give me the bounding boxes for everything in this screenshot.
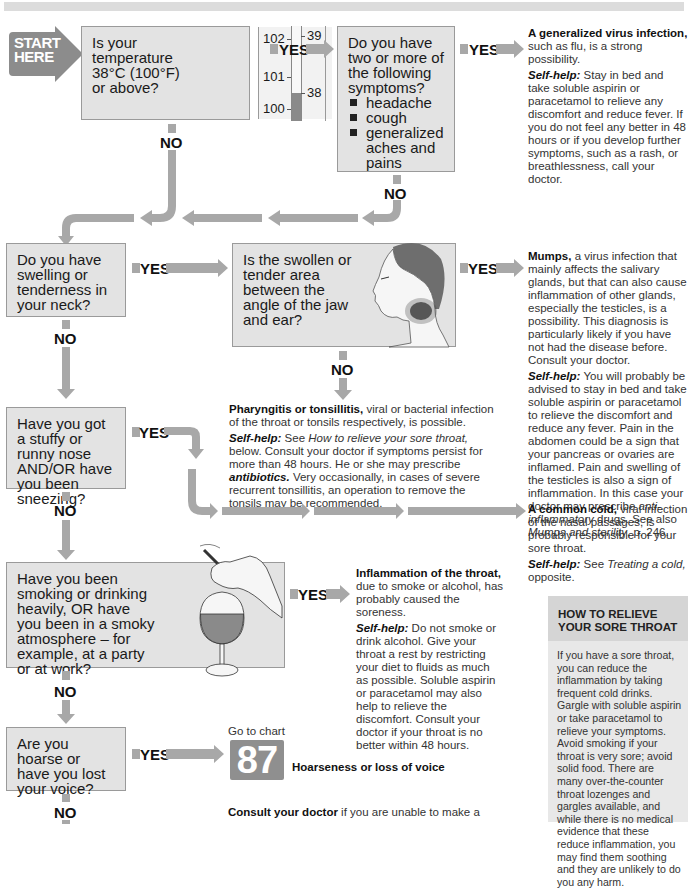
chart-87-badge[interactable]: 87 xyxy=(230,740,284,780)
symptom-item: cough xyxy=(348,110,444,125)
question-temperature: Is your temperature 38°C (100°F) or abov… xyxy=(81,26,250,120)
answer-consult-doctor: Consult your doctor if you are unable to… xyxy=(228,806,508,819)
question-text: Do you have swelling or tenderness in yo… xyxy=(17,252,115,312)
how-to-body: If you have a sore throat, you can reduc… xyxy=(548,641,688,888)
no-label-7: NO xyxy=(54,805,77,820)
how-to-heading: HOW TO RELIEVE YOUR SORE THROAT xyxy=(548,596,688,641)
arrow-down-5 xyxy=(57,520,75,560)
no-label-6: NO xyxy=(54,684,77,699)
title-band xyxy=(4,2,684,11)
answer-inflammation: Inflammation of the throat, due to smoke… xyxy=(356,567,504,752)
question-stuffy-nose: Have you got a stuffy or runny nose AND/… xyxy=(6,407,126,489)
question-text: Are you hoarse or have you lost your voi… xyxy=(17,736,115,796)
thermometer-mercury xyxy=(292,93,301,121)
question-hoarse: Are you hoarse or have you lost your voi… xyxy=(6,727,126,791)
question-jaw-area: Is the swollen or tender area between th… xyxy=(232,243,456,347)
answer-common-cold: A common cold, viral infection of the na… xyxy=(528,503,688,584)
arrow-right-7 xyxy=(166,745,224,763)
go-to-chart-label: Go to chart xyxy=(228,725,285,737)
yes-label-4: YES xyxy=(468,261,498,276)
chart-87-title[interactable]: Hoarseness or loss of voice xyxy=(292,761,445,773)
arrow-right-2 xyxy=(496,40,524,58)
head-illustration xyxy=(353,239,457,347)
yes-label-2: YES xyxy=(469,42,499,57)
no-label-1: NO xyxy=(160,135,183,150)
symptom-item: headache xyxy=(348,95,444,110)
no-label-3: NO xyxy=(54,331,77,346)
question-text: Is your temperature 38°C (100°F) or abov… xyxy=(92,35,180,95)
yes-label-1: YES xyxy=(279,42,309,57)
answer-flu: A generalized virus infection, such as f… xyxy=(528,27,688,186)
wine-and-cigarette-illustration xyxy=(190,546,286,682)
question-text: Have you been smoking or drinking heavil… xyxy=(17,571,157,676)
answer-mumps: Mumps, a virus infection that mainly aff… xyxy=(528,250,688,539)
arrow-down-6 xyxy=(57,700,75,724)
arrow-down-3 xyxy=(57,347,75,399)
arrow-right-3 xyxy=(166,259,228,277)
yes-label-6: YES xyxy=(298,587,328,602)
question-neck-swelling: Do you have swelling or tenderness in yo… xyxy=(6,243,126,317)
arrow-yes5-route xyxy=(164,425,528,525)
arrow-right-4 xyxy=(496,259,524,277)
question-text: Is the swollen or tender area between th… xyxy=(243,252,353,327)
no-label-4: NO xyxy=(331,362,354,377)
no-label-5: NO xyxy=(54,503,77,518)
start-here-label: START HERE xyxy=(14,36,60,64)
connector-arrows-row1 xyxy=(0,150,420,250)
arrow-down-4 xyxy=(334,378,352,400)
arrow-right-6 xyxy=(326,585,350,603)
arrow-right-1 xyxy=(306,40,334,58)
how-to-relieve-box: HOW TO RELIEVE YOUR SORE THROAT If you h… xyxy=(548,596,688,822)
question-text: Do you have two or more of the following… xyxy=(348,35,444,95)
